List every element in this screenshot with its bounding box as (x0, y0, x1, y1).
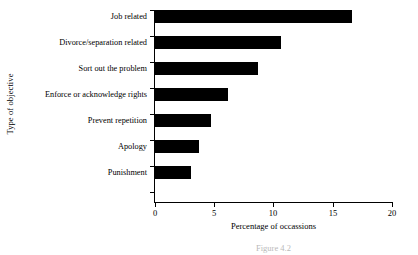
x-axis-tick (155, 203, 156, 207)
x-tick-label-15: 15 (318, 208, 348, 218)
x-axis-title: Percentage of occassions (155, 221, 392, 231)
bar-chart-figure: Type of objective Job related Divorce/se… (0, 0, 418, 255)
x-axis-tick (273, 203, 274, 207)
x-axis-tick (333, 203, 334, 207)
bar-sort-out-problem (155, 62, 258, 75)
bar-enforce-rights (155, 88, 228, 101)
y-tick-label-punishment: Punishment (108, 166, 147, 179)
x-tick-label-20: 20 (377, 208, 407, 218)
y-axis-tick-labels: Job related Divorce/separation related S… (18, 10, 151, 202)
bar-prevent-repetition (155, 114, 211, 127)
x-axis-tick (214, 203, 215, 207)
y-tick-label-divorce-separation: Divorce/separation related (59, 36, 147, 49)
y-tick-label-enforce-rights: Enforce or acknowledge rights (45, 88, 147, 101)
figure-caption: Figure 4.2 (155, 243, 392, 255)
x-tick-label-5: 5 (199, 208, 229, 218)
y-tick-label-job-related: Job related (111, 10, 147, 23)
y-axis-title-text: Type of objective (5, 73, 15, 134)
bar-apology (155, 140, 199, 153)
x-tick-label-0: 0 (140, 208, 170, 218)
y-tick-label-prevent-repetition: Prevent repetition (88, 114, 147, 127)
y-axis-title: Type of objective (2, 0, 18, 208)
x-axis-tick (392, 203, 393, 207)
y-tick-label-sort-out-problem: Sort out the problem (79, 62, 147, 75)
y-tick-label-apology: Apology (118, 140, 147, 153)
x-tick-label-10: 10 (258, 208, 288, 218)
bar-divorce-separation (155, 36, 281, 49)
plot-area (155, 10, 392, 202)
bar-punishment (155, 166, 191, 179)
bar-job-related (155, 10, 352, 23)
